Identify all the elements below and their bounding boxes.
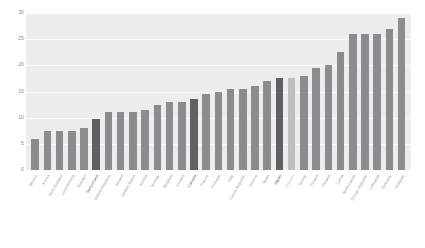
x-label-slot: Italy — [225, 172, 237, 246]
x-tick-label: Latvia — [335, 174, 344, 186]
bar[interactable] — [44, 131, 52, 170]
bar-series — [26, 13, 411, 170]
bar[interactable] — [68, 131, 76, 170]
bar[interactable] — [386, 29, 394, 170]
x-label-slot: Latvia — [334, 172, 346, 246]
bar[interactable] — [361, 34, 369, 170]
bar-slot — [334, 13, 346, 170]
x-label-slot: Estonia — [286, 172, 298, 246]
bar-slot — [273, 13, 285, 170]
x-label-slot: Mexico — [29, 172, 41, 246]
x-label-slot: Korea — [41, 172, 53, 246]
x-tick-label: Ireland — [114, 174, 124, 187]
bar[interactable] — [56, 131, 64, 170]
x-label-slot: Iceland — [176, 172, 188, 246]
bar-slot — [66, 13, 78, 170]
bar[interactable] — [373, 34, 381, 170]
bar-slot — [188, 13, 200, 170]
gridline — [26, 170, 411, 171]
bar[interactable] — [215, 92, 223, 171]
bar[interactable] — [166, 102, 174, 170]
x-label-slot: Belgium — [163, 172, 175, 246]
bar[interactable] — [92, 119, 100, 170]
bar-slot — [286, 13, 298, 170]
bar-slot — [139, 13, 151, 170]
bar[interactable] — [337, 52, 345, 170]
y-tick-label: 0 — [2, 167, 24, 172]
y-tick-label: 15 — [2, 89, 24, 94]
bar-slot — [225, 13, 237, 170]
x-label-slot: Japan — [273, 172, 285, 246]
x-label-slot: Norway — [151, 172, 163, 246]
bar-slot — [90, 13, 102, 170]
x-tick-label: Germany — [381, 174, 393, 191]
bar-slot — [151, 13, 163, 170]
y-tick-label: 5 — [2, 141, 24, 146]
bar[interactable] — [276, 78, 284, 170]
y-tick-label: 25 — [2, 36, 24, 41]
y-tick-label: 10 — [2, 115, 24, 120]
x-tick-label: Poland — [310, 174, 320, 187]
x-tick-label: Norway — [150, 174, 160, 188]
bar[interactable] — [349, 34, 357, 170]
x-tick-label: Sweden — [77, 174, 88, 189]
bar[interactable] — [80, 128, 88, 170]
bar[interactable] — [251, 86, 259, 170]
bar-slot — [322, 13, 334, 170]
bar[interactable] — [312, 68, 320, 170]
bar-slot — [212, 13, 224, 170]
x-tick-label: France — [200, 174, 210, 187]
bar-slot — [347, 13, 359, 170]
x-tick-label: Spain — [262, 174, 271, 185]
x-tick-label: Belgium — [162, 174, 173, 189]
bar-slot — [396, 13, 408, 170]
bar[interactable] — [105, 112, 113, 170]
bar-slot — [29, 13, 41, 170]
bar[interactable] — [178, 102, 186, 170]
x-tick-label: Finland — [322, 174, 332, 188]
bar-slot — [237, 13, 249, 170]
x-tick-label: Korea — [42, 174, 51, 186]
bar[interactable] — [398, 18, 406, 170]
bar-slot — [115, 13, 127, 170]
x-tick-label: Iceland — [175, 174, 185, 187]
bar-slot — [359, 13, 371, 170]
x-tick-label: Japan — [274, 174, 283, 186]
x-tick-label: Canada — [187, 174, 198, 188]
bar[interactable] — [202, 94, 210, 170]
x-tick-label: Greece — [248, 174, 258, 188]
bar[interactable] — [227, 89, 235, 170]
x-tick-label: Italy — [227, 174, 234, 183]
x-label-slot: Greece — [249, 172, 261, 246]
x-tick-label: Mexico — [29, 174, 39, 187]
x-tick-label: Portugal — [211, 174, 222, 189]
bar-slot — [78, 13, 90, 170]
x-label-slot: United Kingdom — [102, 172, 114, 246]
bar[interactable] — [154, 105, 162, 170]
x-tick-label: Austria — [139, 174, 149, 187]
bar[interactable] — [263, 81, 271, 170]
bar-slot — [249, 13, 261, 170]
bar[interactable] — [117, 112, 125, 170]
plot-area — [26, 13, 411, 170]
x-label-slot: New Zealand — [53, 172, 65, 246]
y-tick-label: 20 — [2, 62, 24, 67]
bar[interactable] — [141, 110, 149, 170]
x-label-slot: Portugal — [212, 172, 224, 246]
bar[interactable] — [288, 78, 296, 170]
x-label-slot: Finland — [322, 172, 334, 246]
bar-slot — [41, 13, 53, 170]
bar[interactable] — [31, 139, 39, 170]
bar-slot — [53, 13, 65, 170]
bar-slot — [176, 13, 188, 170]
bar[interactable] — [190, 99, 198, 170]
bar[interactable] — [239, 89, 247, 170]
x-axis-labels: MexicoKoreaNew ZealandLuxembourgSwedenSw… — [26, 172, 411, 246]
bar[interactable] — [300, 76, 308, 170]
bar-chart: 051015202530 MexicoKoreaNew ZealandLuxem… — [0, 0, 425, 248]
bar[interactable] — [325, 65, 333, 170]
bar[interactable] — [129, 112, 137, 170]
y-tick-label: 30 — [2, 10, 24, 15]
x-tick-label: Turkey — [298, 174, 308, 187]
bar-slot — [127, 13, 139, 170]
